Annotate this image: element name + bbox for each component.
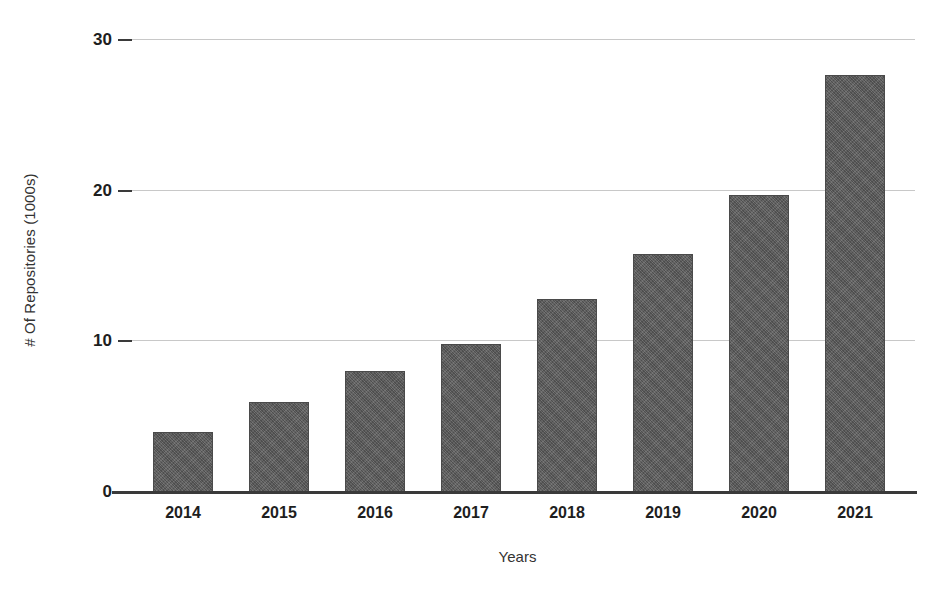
gridline-30 [120, 39, 915, 40]
bar-2014[interactable] [153, 432, 213, 492]
x-tick-label-2020: 2020 [711, 504, 807, 522]
bar-2020[interactable] [729, 195, 789, 492]
x-tick-label-2015: 2015 [231, 504, 327, 522]
y-tick-label: 20 [52, 181, 112, 201]
x-axis-line [112, 491, 917, 494]
bar-2016[interactable] [345, 371, 405, 492]
bar-2015[interactable] [249, 402, 309, 492]
y-tick-mark [118, 340, 132, 342]
y-tick-mark [118, 39, 132, 41]
bar-chart: # Of Repositories (1000s) 0102030 201420… [0, 0, 939, 601]
gridline-10 [120, 340, 915, 341]
x-tick-label-2021: 2021 [807, 504, 903, 522]
y-axis-title: # Of Repositories (1000s) [12, 20, 46, 500]
x-tick-label-2018: 2018 [519, 504, 615, 522]
y-tick-label: 30 [52, 30, 112, 50]
y-tick-mark [118, 190, 132, 192]
x-tick-label-2019: 2019 [615, 504, 711, 522]
y-tick-label: 10 [52, 331, 112, 351]
bar-2017[interactable] [441, 344, 501, 492]
gridline-20 [120, 190, 915, 191]
bar-2021[interactable] [825, 75, 885, 492]
bar-2019[interactable] [633, 254, 693, 492]
x-tick-label-2014: 2014 [135, 504, 231, 522]
x-tick-label-2016: 2016 [327, 504, 423, 522]
bar-2018[interactable] [537, 299, 597, 492]
x-axis-title: Years [120, 548, 915, 565]
x-tick-label-2017: 2017 [423, 504, 519, 522]
y-tick-label: 0 [52, 482, 112, 502]
plot-area [120, 40, 915, 492]
y-tick-mark [118, 491, 132, 493]
